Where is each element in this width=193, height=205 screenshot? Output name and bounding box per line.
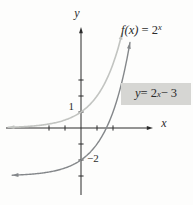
f-curve-label-fn: f(x) xyxy=(121,23,138,37)
x-axis-label-text: x xyxy=(161,116,166,130)
x-axis-label: x xyxy=(157,117,171,130)
f-curve-label: f(x) = 2x xyxy=(121,23,162,37)
shifted-curve-label-eq: = 2 xyxy=(140,87,156,100)
y-axis-label-text: y xyxy=(74,6,79,20)
f-curve-label-exponent: x xyxy=(158,22,162,32)
y-tick-label-1: 1 xyxy=(60,101,74,113)
exponential-shift-figure: y x 1 −2 f(x) = 2x y = 2x − 3 xyxy=(0,0,193,205)
f-curve-label-eq: = 2 xyxy=(138,23,158,37)
shifted-curve-label-box: y = 2x − 3 xyxy=(121,83,191,105)
y-axis-label: y xyxy=(70,7,84,20)
shifted-curve-label-rest: − 3 xyxy=(161,87,177,100)
y-tick-label-neg2: −2 xyxy=(87,153,99,165)
